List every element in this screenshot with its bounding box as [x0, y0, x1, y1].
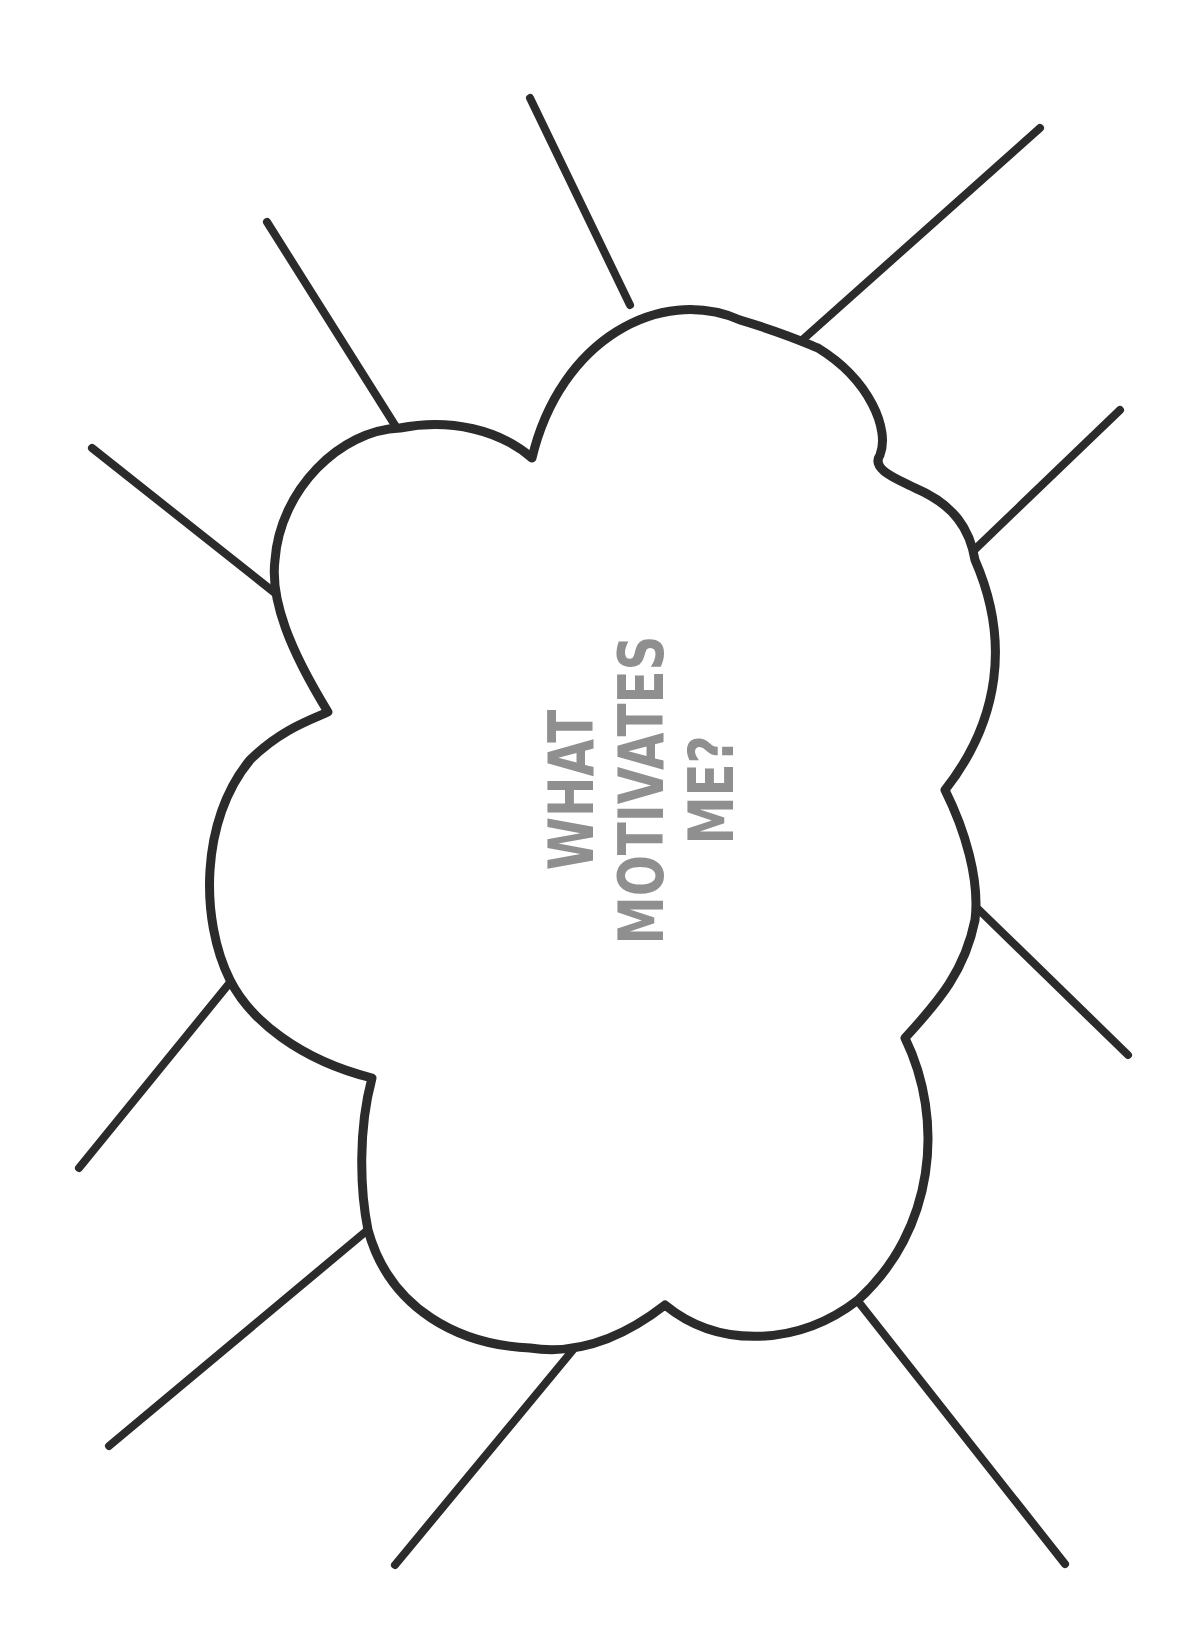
- answer-line-1: [530, 98, 630, 305]
- answer-line-6: [975, 906, 1128, 1055]
- answer-line-9: [395, 1345, 577, 1565]
- title-line-2: MOTIVATES: [607, 636, 677, 945]
- answer-line-4: [967, 410, 1120, 557]
- worksheet-title: WHAT MOTIVATES ME?: [537, 592, 747, 988]
- answer-line-2: [800, 128, 1040, 342]
- answer-line-7: [79, 980, 232, 1168]
- answer-line-5: [92, 448, 275, 593]
- title-line-3: ME?: [677, 636, 747, 945]
- title-line-1: WHAT: [537, 636, 607, 945]
- answer-line-8: [109, 1228, 370, 1446]
- answer-line-10: [857, 1300, 1065, 1564]
- answer-line-3: [267, 222, 398, 430]
